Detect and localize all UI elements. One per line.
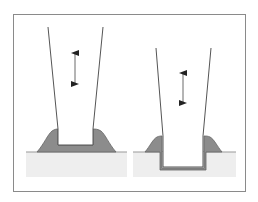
diagram-svg [0,0,258,202]
ground-left [26,152,127,177]
diagram-canvas [0,0,258,202]
tool-right [156,48,211,167]
